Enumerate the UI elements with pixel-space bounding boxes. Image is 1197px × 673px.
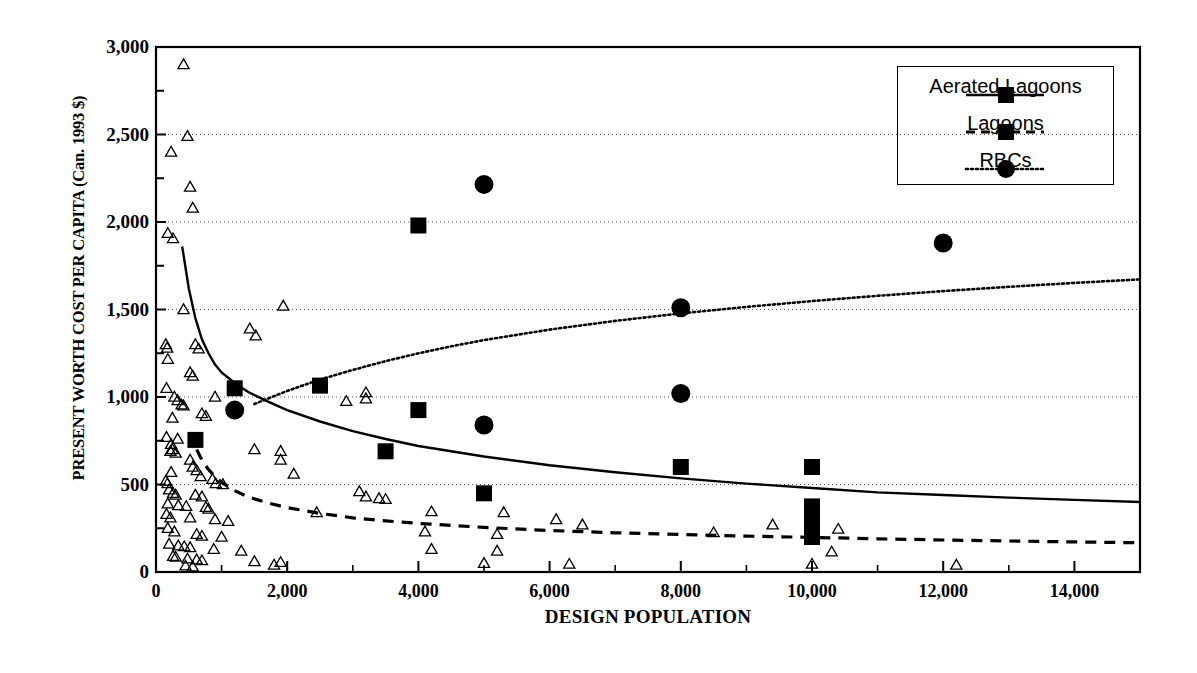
marker-filled-circle	[225, 401, 244, 420]
marker-filled-square	[804, 529, 820, 545]
marker-open-triangle	[209, 391, 220, 401]
marker-filled-circle	[671, 384, 690, 403]
marker-open-triangle	[178, 59, 189, 69]
marker-filled-square	[187, 432, 203, 448]
y-tick-label: 500	[29, 475, 149, 494]
marker-open-triangle	[178, 304, 189, 314]
marker-open-triangle	[354, 486, 365, 496]
marker-open-triangle	[166, 146, 177, 156]
marker-open-triangle	[288, 468, 299, 478]
x-tick-label: 14,000	[1014, 582, 1134, 600]
x-tick-label: 2,000	[227, 582, 347, 600]
y-tick-label: 1,000	[29, 387, 149, 406]
marker-open-triangle	[161, 383, 172, 393]
marker-open-triangle	[167, 412, 178, 422]
marker-open-triangle	[341, 396, 352, 406]
marker-open-triangle	[244, 323, 255, 333]
marker-open-triangle	[182, 553, 193, 563]
marker-open-triangle	[833, 524, 844, 534]
marker-open-triangle	[162, 354, 173, 364]
y-tick-label: 1,500	[29, 300, 149, 319]
marker-open-triangle	[182, 131, 193, 141]
marker-open-triangle	[249, 444, 260, 454]
marker-filled-square	[378, 443, 394, 459]
marker-filled-square	[804, 459, 820, 475]
marker-open-triangle	[208, 544, 219, 554]
marker-open-triangle	[492, 529, 503, 539]
marker-open-triangle	[191, 465, 202, 475]
marker-filled-square	[410, 218, 426, 234]
marker-open-triangle	[209, 514, 220, 524]
marker-filled-square	[227, 380, 243, 396]
x-tick-label: 10,000	[752, 582, 872, 600]
x-tick-label: 0	[96, 582, 216, 600]
marker-open-triangle	[551, 514, 562, 524]
marker-filled-circle	[475, 416, 494, 435]
marker-open-triangle	[577, 519, 588, 529]
legend-item-aerated-lagoons: Aerated Lagoons	[898, 75, 1113, 98]
marker-open-triangle	[767, 519, 778, 529]
trend-curve-solid	[182, 247, 1140, 503]
legend-item-lagoons: Lagoons	[898, 112, 1113, 135]
marker-filled-square	[673, 459, 689, 475]
marker-open-triangle	[951, 559, 962, 569]
marker-open-triangle	[360, 387, 371, 397]
y-tick-label: 2,000	[29, 212, 149, 231]
y-tick-label: 0	[29, 562, 149, 581]
legend-item-rbcs: RBCs	[898, 149, 1113, 172]
marker-open-triangle	[165, 512, 176, 522]
marker-filled-square	[410, 402, 426, 418]
marker-open-triangle	[223, 516, 234, 526]
marker-open-triangle	[187, 202, 198, 212]
marker-open-triangle	[826, 546, 837, 556]
marker-open-triangle	[164, 538, 175, 548]
marker-open-triangle	[426, 506, 437, 516]
marker-filled-circle	[934, 234, 953, 253]
marker-open-triangle	[185, 181, 196, 191]
x-tick-label: 12,000	[883, 582, 1003, 600]
marker-filled-square	[476, 485, 492, 501]
marker-open-triangle	[172, 433, 183, 443]
x-tick-label: 4,000	[358, 582, 478, 600]
trend-curve-dotted	[254, 279, 1140, 404]
marker-open-triangle	[166, 467, 177, 477]
marker-open-triangle	[185, 512, 196, 522]
chart-figure: PRESENT WORTH COST PER CAPITA (Can. 1993…	[0, 0, 1197, 673]
y-tick-label: 3,000	[29, 37, 149, 56]
marker-open-triangle	[216, 531, 227, 541]
marker-open-triangle	[492, 545, 503, 555]
marker-open-triangle	[419, 526, 430, 536]
marker-filled-circle	[475, 175, 494, 194]
marker-open-triangle	[278, 300, 289, 310]
marker-filled-square	[312, 378, 328, 394]
legend: Aerated Lagoons Lagoons RBCs	[897, 66, 1114, 185]
marker-open-triangle	[564, 559, 575, 569]
marker-open-triangle	[236, 545, 247, 555]
x-tick-label: 8,000	[621, 582, 741, 600]
marker-filled-circle	[671, 298, 690, 317]
y-tick-label: 2,500	[29, 125, 149, 144]
marker-open-triangle	[190, 489, 201, 499]
marker-open-triangle	[250, 330, 261, 340]
marker-open-triangle	[426, 544, 437, 554]
x-tick-label: 6,000	[490, 582, 610, 600]
marker-open-triangle	[498, 507, 509, 517]
marker-open-triangle	[249, 556, 260, 566]
